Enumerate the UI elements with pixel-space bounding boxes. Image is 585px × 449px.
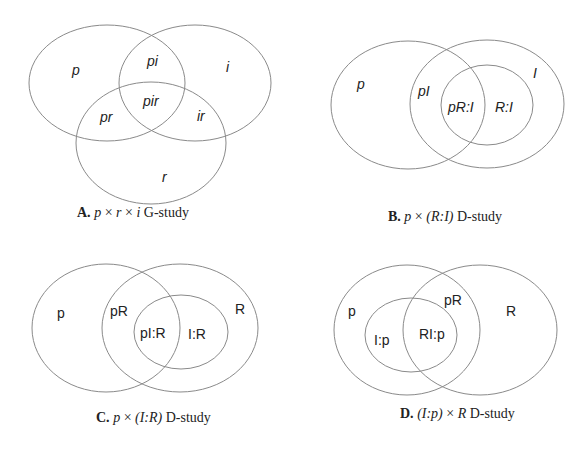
panel-b-d-study: p pI I pR:I R:I B. p × (R:I) D-study bbox=[331, 40, 564, 225]
ellipse-p bbox=[334, 265, 480, 395]
label-r: r bbox=[162, 169, 168, 185]
panel-a-g-study: p pi i pir pr ir r A. p × r × i G-study bbox=[29, 25, 271, 220]
caption-suffix: D-study bbox=[453, 209, 502, 224]
caption-term: p bbox=[403, 209, 411, 224]
caption-term: R bbox=[457, 406, 467, 421]
ellipse-i bbox=[119, 25, 271, 141]
caption-term: p bbox=[112, 410, 120, 425]
caption-suffix: D-study bbox=[162, 410, 211, 425]
ellipse-I bbox=[410, 40, 564, 168]
venn-diagram-figure: p pi i pir pr ir r A. p × r × i G-study … bbox=[0, 0, 585, 449]
caption-suffix: D-study bbox=[466, 406, 515, 421]
caption-letter: A. bbox=[77, 205, 91, 220]
caption-letter: D. bbox=[400, 406, 414, 421]
caption-b: B. p × (R:I) D-study bbox=[388, 209, 502, 225]
label-pir: pir bbox=[142, 93, 160, 109]
label-I-p: I:p bbox=[374, 332, 390, 348]
panel-c-d-study: p pR R pI:R I:R C. p × (I:R) D-study bbox=[32, 264, 258, 426]
caption-times: × bbox=[443, 406, 458, 421]
label-pI-R: pI:R bbox=[140, 325, 166, 341]
caption-times: × bbox=[411, 209, 426, 224]
label-I-R: I:R bbox=[188, 326, 206, 342]
caption-term: p bbox=[93, 205, 101, 220]
panel-d-d-study: p pR R I:p RI:p D. (I:p) × R D-study bbox=[334, 265, 557, 422]
caption-times: × bbox=[121, 205, 136, 220]
label-pR-I: pR:I bbox=[447, 99, 474, 115]
label-pI: pI bbox=[417, 83, 430, 99]
caption-letter: C. bbox=[96, 410, 110, 425]
label-RI-p: RI:p bbox=[419, 326, 445, 342]
label-i: i bbox=[226, 59, 230, 75]
caption-c: C. p × (I:R) D-study bbox=[96, 410, 211, 426]
caption-term: (I:p) bbox=[417, 406, 443, 422]
label-R: R bbox=[506, 303, 516, 319]
caption-letter: B. bbox=[388, 209, 401, 224]
caption-times: × bbox=[101, 205, 116, 220]
caption-a: A. p × r × i G-study bbox=[77, 205, 189, 220]
caption-term: (I:R) bbox=[135, 410, 163, 426]
label-p: p bbox=[356, 76, 365, 92]
label-ir: ir bbox=[197, 108, 206, 124]
label-pr: pr bbox=[99, 109, 114, 125]
label-R: R bbox=[235, 301, 245, 317]
label-p: p bbox=[57, 305, 65, 321]
label-pR: pR bbox=[110, 303, 128, 319]
label-p: p bbox=[71, 62, 80, 78]
label-R-I: R:I bbox=[495, 99, 513, 115]
label-I: I bbox=[533, 65, 537, 81]
caption-suffix: G-study bbox=[140, 205, 189, 220]
label-pR: pR bbox=[444, 292, 462, 308]
caption-term: (R:I) bbox=[426, 209, 454, 225]
caption-times: × bbox=[120, 410, 135, 425]
caption-d: D. (I:p) × R D-study bbox=[400, 406, 515, 422]
label-p: p bbox=[348, 303, 356, 319]
label-pi: pi bbox=[146, 53, 159, 69]
